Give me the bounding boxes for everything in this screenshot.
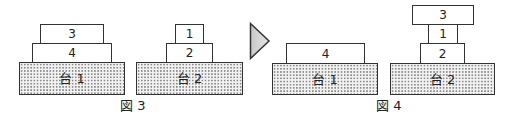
block-number: 4 <box>322 48 330 60</box>
block-number: 1 <box>439 28 447 40</box>
fig4-block-2: 2 <box>420 43 465 64</box>
block-number: 4 <box>68 47 76 59</box>
fig4-stand-2: 台 2 <box>390 63 495 95</box>
fig3-block-1: 1 <box>175 24 204 44</box>
right-arrow-icon <box>249 22 271 60</box>
stand-label: 台 2 <box>430 73 455 86</box>
fig3-stand-2: 台 2 <box>136 62 243 95</box>
stand-label: 台 2 <box>177 72 202 85</box>
fig4-stand-1: 台 1 <box>272 63 378 95</box>
block-number: 2 <box>186 47 194 59</box>
block-number: 3 <box>68 28 76 40</box>
stand-label: 台 1 <box>312 73 337 86</box>
block-number: 3 <box>439 9 447 21</box>
fig3-block-2: 2 <box>166 43 213 63</box>
stand-label: 台 1 <box>59 72 84 85</box>
fig3-stand-1: 台 1 <box>19 62 125 95</box>
fig4-block-4: 4 <box>286 43 365 64</box>
fig3-block-3: 3 <box>40 24 104 44</box>
figure-4-caption: 図 4 <box>376 99 401 112</box>
fig4-block-3: 3 <box>412 5 474 25</box>
figure-3-caption: 図 3 <box>120 99 145 112</box>
fig3-block-4: 4 <box>32 43 112 63</box>
block-number: 1 <box>186 28 194 40</box>
fig4-block-1: 1 <box>428 24 458 44</box>
block-number: 2 <box>439 48 447 60</box>
